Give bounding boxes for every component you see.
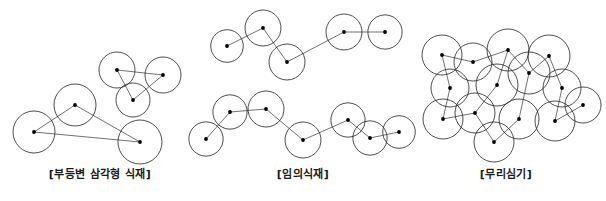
- tree-center-dot: [204, 137, 208, 141]
- caption-scalene-triangle-planting: [부등변 삼각형 식재]: [0, 168, 200, 182]
- figure-mass-planting-mass-cluster: [422, 29, 601, 162]
- figure-random-planting-center-dots: [204, 107, 401, 142]
- connector-line: [497, 50, 508, 85]
- connector-line: [117, 70, 163, 75]
- tree-center-dot: [115, 68, 119, 72]
- connector-line: [370, 132, 399, 138]
- figure-random-planting: [189, 10, 415, 158]
- connector-line: [555, 88, 562, 121]
- tree-center-dot: [553, 119, 557, 123]
- tree-center-dot: [517, 117, 521, 121]
- connector-line: [475, 113, 494, 142]
- tree-center-dot: [547, 54, 551, 58]
- connector-line: [442, 55, 450, 88]
- tree-center-dot: [440, 53, 444, 57]
- tree-center-dot: [473, 111, 477, 115]
- connector-line: [263, 28, 287, 62]
- figure-scalene-triangle-planting-canopies: [99, 52, 181, 117]
- figure-mass-planting-center-dots: [440, 48, 585, 144]
- tree-center-dot: [32, 130, 36, 134]
- connector-line: [443, 88, 450, 119]
- figure-sheet: [부등변 삼각형 식재] [임의식재] [무리심기]: [0, 0, 606, 201]
- tree-center-dot: [397, 130, 401, 134]
- tree-center-dot: [346, 118, 350, 122]
- tree-center-dot: [73, 103, 77, 107]
- figure-scalene-triangle-planting-center-dots: [32, 103, 142, 144]
- tree-center-dot: [506, 48, 510, 52]
- figure-mass-planting-connector-lines: [442, 50, 583, 142]
- tree-center-dot: [228, 110, 232, 114]
- connector-line: [473, 50, 508, 62]
- caption-mass-planting: [무리심기]: [406, 168, 606, 182]
- figure-random-planting-connector-lines: [227, 28, 385, 62]
- tree-center-dot: [527, 71, 531, 75]
- connector-line: [266, 109, 303, 140]
- figure-scalene-triangle-planting-lower-left-triangle: [13, 84, 162, 164]
- tree-center-dot: [448, 86, 452, 90]
- figure-random-planting-lower-row: [189, 91, 415, 158]
- tree-center-dot: [301, 138, 305, 142]
- tree-center-dot: [383, 30, 387, 34]
- connector-line: [34, 132, 140, 142]
- figure-scalene-triangle-planting-center-dots: [115, 68, 165, 102]
- tree-center-dot: [441, 117, 445, 121]
- tree-center-dot: [264, 107, 268, 111]
- figure-random-planting-canopies: [189, 91, 415, 158]
- tree-center-dot: [581, 103, 585, 107]
- tree-center-dot: [560, 86, 564, 90]
- figure-random-planting-canopies: [211, 10, 402, 80]
- tree-center-dot: [161, 73, 165, 77]
- connector-line: [443, 113, 475, 119]
- connector-line: [519, 73, 529, 119]
- connector-line: [442, 55, 473, 62]
- tree-center-dot: [131, 98, 135, 102]
- figure-mass-planting: [422, 29, 601, 162]
- connector-line: [475, 85, 497, 113]
- connector-line: [348, 120, 370, 138]
- figure-scalene-triangle-planting-connector-lines: [34, 105, 140, 142]
- connector-line: [133, 75, 163, 100]
- connector-line: [555, 105, 583, 121]
- tree-center-dot: [225, 44, 229, 48]
- tree-center-dot: [368, 136, 372, 140]
- tree-center-dot: [471, 60, 475, 64]
- figure-mass-planting-canopies: [422, 29, 601, 162]
- tree-center-dot: [285, 60, 289, 64]
- tree-center-dot: [492, 140, 496, 144]
- figure-scalene-triangle-planting-canopies: [13, 84, 162, 164]
- figure-scalene-triangle-planting: [13, 52, 181, 164]
- figure-random-planting-upper-row: [211, 10, 402, 80]
- connector-line: [206, 112, 230, 139]
- tree-center-dot: [138, 140, 142, 144]
- connector-line: [287, 32, 344, 62]
- tree-center-dot: [495, 83, 499, 87]
- caption-random-planting: [임의식재]: [200, 168, 406, 182]
- figure-random-planting-connector-lines: [206, 109, 399, 140]
- figure-scalene-triangle-planting-connector-lines: [117, 70, 163, 100]
- tree-center-dot: [261, 26, 265, 30]
- connector-line: [529, 56, 549, 73]
- figure-scalene-triangle-planting-upper-right-triangle: [99, 52, 181, 117]
- connector-line: [549, 56, 562, 88]
- tree-center-dot: [342, 30, 346, 34]
